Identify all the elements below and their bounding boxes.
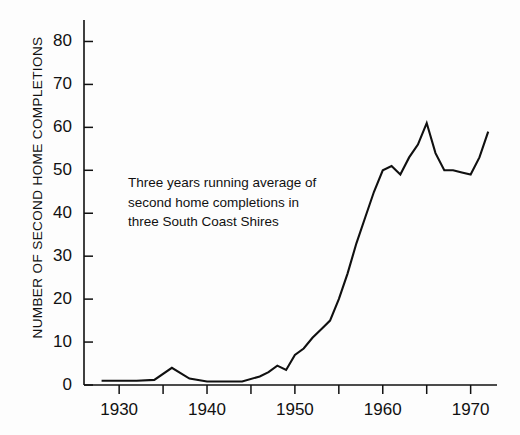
y-tick-label: 40 <box>38 204 72 221</box>
data-series-group <box>102 123 489 382</box>
y-tick-label: 10 <box>38 333 72 350</box>
y-tick-label: 30 <box>38 247 72 264</box>
y-tick-label: 50 <box>38 161 72 178</box>
y-axis-ticks <box>84 41 93 385</box>
x-axis-ticks <box>119 385 470 394</box>
y-tick-label: 80 <box>38 32 72 49</box>
chart-figure: NUMBER OF SECOND HOME COMPLETIONS 010203… <box>0 0 520 435</box>
y-tick-label: 60 <box>38 118 72 135</box>
x-tick-label: 1940 <box>177 401 237 418</box>
chart-annotation: Three years running average of second ho… <box>128 173 316 232</box>
y-tick-label: 0 <box>38 376 72 393</box>
annotation-line-2: second home completions in <box>128 193 316 213</box>
x-tick-label: 1970 <box>441 401 501 418</box>
x-tick-label: 1950 <box>265 401 325 418</box>
x-tick-label: 1930 <box>89 401 149 418</box>
x-tick-label: 1960 <box>353 401 413 418</box>
annotation-line-3: three South Coast Shires <box>128 212 316 232</box>
y-tick-label: 20 <box>38 290 72 307</box>
annotation-line-1: Three years running average of <box>128 173 316 193</box>
y-tick-label: 70 <box>38 75 72 92</box>
data-line <box>102 123 489 382</box>
